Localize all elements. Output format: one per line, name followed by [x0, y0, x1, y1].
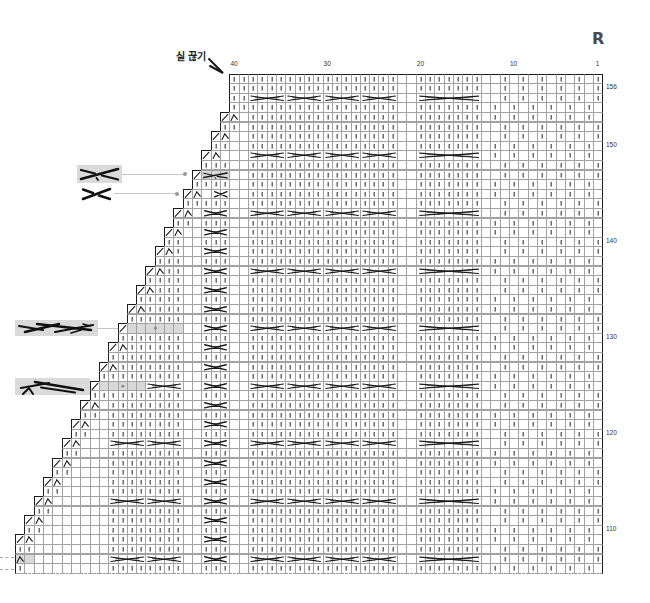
knit-stitch-icon	[109, 420, 117, 429]
knit-stitch-icon	[156, 545, 164, 554]
knit-stitch-icon	[463, 161, 471, 170]
knit-stitch-icon	[212, 180, 220, 189]
knit-stitch-icon	[258, 545, 266, 554]
knit-stitch-icon	[333, 478, 341, 487]
knit-stitch-icon	[370, 353, 378, 362]
knit-stitch-icon	[342, 228, 350, 237]
knit-stitch-icon	[417, 257, 425, 266]
knit-stitch-icon	[519, 123, 527, 132]
knit-stitch-icon	[333, 315, 341, 324]
knit-stitch-icon	[575, 555, 583, 564]
knit-stitch-icon	[268, 113, 276, 122]
knit-stitch-icon	[258, 276, 266, 285]
knit-stitch-icon	[249, 507, 257, 516]
cable-5st-highlight-icon	[15, 378, 90, 395]
knit-stitch-icon	[454, 132, 462, 141]
knit-stitch-icon	[258, 420, 266, 429]
knit-stitch-icon	[417, 228, 425, 237]
cable-4st	[249, 267, 285, 276]
cable-4st	[324, 439, 360, 448]
knit-stitch-icon	[501, 276, 509, 285]
knit-stitch-icon	[473, 459, 481, 468]
knit-stitch-icon	[174, 267, 182, 276]
knit-stitch-icon	[566, 411, 574, 420]
knit-stitch-icon	[585, 334, 593, 343]
knit-stitch-icon	[249, 75, 257, 84]
cross-2st-icon	[80, 186, 113, 201]
knit-stitch-icon	[305, 507, 313, 516]
knit-stitch-icon	[268, 343, 276, 352]
decrease-icon	[212, 151, 220, 160]
knit-stitch-icon	[473, 228, 481, 237]
knit-stitch-icon	[305, 391, 313, 400]
knit-stitch-icon	[258, 286, 266, 295]
k2tog-icon	[221, 113, 229, 122]
knit-stitch-icon	[268, 238, 276, 247]
row-number-label: 150	[606, 141, 617, 148]
knit-stitch-icon	[296, 343, 304, 352]
knit-stitch-icon	[585, 103, 593, 112]
knit-stitch-icon	[463, 391, 471, 400]
decrease-icon	[53, 478, 61, 487]
knit-stitch-icon	[174, 305, 182, 314]
knit-stitch-icon	[146, 468, 154, 477]
knit-stitch-icon	[463, 276, 471, 285]
knit-stitch-icon	[361, 401, 369, 410]
knit-stitch-icon	[557, 238, 565, 247]
knit-stitch-icon	[296, 171, 304, 180]
knit-stitch-icon	[361, 468, 369, 477]
knit-stitch-icon	[305, 363, 313, 372]
knit-stitch-icon	[389, 468, 397, 477]
cable-4st	[146, 555, 182, 564]
knit-stitch-icon	[212, 391, 220, 400]
k2tog-icon	[53, 459, 61, 468]
knit-stitch-icon	[174, 238, 182, 247]
knit-stitch-icon	[165, 430, 173, 439]
knit-stitch-icon	[342, 516, 350, 525]
knit-stitch-icon	[156, 363, 164, 372]
knit-stitch-icon	[519, 161, 527, 170]
cross-3st-highlight	[202, 171, 229, 180]
knit-stitch-icon	[389, 401, 397, 410]
knit-stitch-icon	[333, 372, 341, 381]
knit-stitch-icon	[445, 113, 453, 122]
knit-stitch-icon	[342, 363, 350, 372]
knit-stitch-icon	[463, 478, 471, 487]
k2tog-icon	[63, 439, 71, 448]
cable-7st-icon	[417, 151, 481, 160]
knit-stitch-icon	[240, 103, 248, 112]
knit-stitch-icon	[268, 401, 276, 410]
knit-stitch-icon	[575, 75, 583, 84]
knit-stitch-icon	[165, 238, 173, 247]
knit-stitch-icon	[296, 507, 304, 516]
knit-stitch-icon	[519, 363, 527, 372]
knit-stitch-icon	[575, 439, 583, 448]
knit-stitch-icon	[296, 257, 304, 266]
knit-stitch-icon	[333, 353, 341, 362]
knit-stitch-icon	[268, 353, 276, 362]
cable-4st	[286, 267, 322, 276]
knit-stitch-icon	[426, 334, 434, 343]
knit-stitch-icon	[370, 526, 378, 535]
knit-stitch-icon	[221, 180, 229, 189]
knit-stitch-icon	[352, 161, 360, 170]
knit-stitch-icon	[146, 305, 154, 314]
knit-stitch-icon	[575, 199, 583, 208]
knit-stitch-icon	[547, 343, 555, 352]
knit-stitch-icon	[249, 343, 257, 352]
cable-4st-icon	[249, 439, 285, 448]
knit-stitch-icon	[119, 545, 127, 554]
knit-stitch-icon	[417, 420, 425, 429]
cable-4st-icon	[361, 497, 397, 506]
knit-stitch-icon	[575, 545, 583, 554]
knit-stitch-icon	[174, 420, 182, 429]
decrease-icon	[119, 343, 127, 352]
knit-stitch-icon	[258, 190, 266, 199]
knit-stitch-icon	[566, 190, 574, 199]
knit-stitch-icon	[342, 420, 350, 429]
knit-stitch-icon	[314, 305, 322, 314]
knit-stitch-icon	[547, 103, 555, 112]
knit-stitch-icon	[324, 305, 332, 314]
knit-stitch-icon	[277, 305, 285, 314]
knit-stitch-icon	[305, 238, 313, 247]
